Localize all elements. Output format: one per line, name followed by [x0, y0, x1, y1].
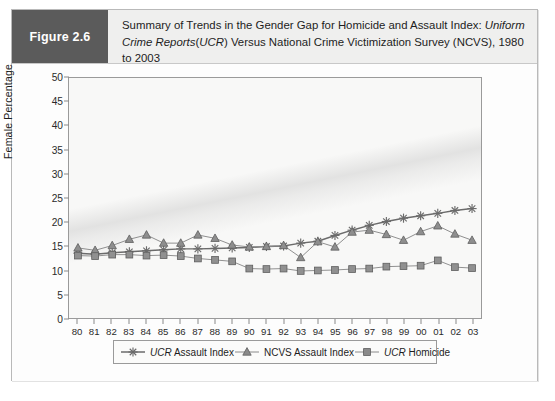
- x-tick-mark: [386, 319, 387, 324]
- x-tick-mark: [94, 319, 95, 324]
- x-tick-label: 94: [313, 326, 324, 337]
- square-marker: [195, 255, 202, 262]
- legend-label-italic: UCR: [384, 347, 406, 358]
- square-marker: [366, 265, 373, 272]
- x-tick-label: 84: [141, 326, 152, 337]
- legend-item[interactable]: UCR Assault Index: [120, 346, 234, 358]
- asterisk-marker: [467, 204, 476, 213]
- x-tick-label: 91: [261, 326, 272, 337]
- series-asterisk: [73, 204, 476, 259]
- x-tick-label: 98: [382, 326, 393, 337]
- y-tick-mark: [64, 77, 69, 78]
- y-tick-mark: [64, 198, 69, 199]
- triangle-marker: [434, 221, 442, 229]
- data-series-layer: [69, 78, 481, 318]
- series-line: [78, 226, 472, 258]
- y-tick-mark: [64, 294, 69, 295]
- triangle-marker: [159, 239, 167, 247]
- x-tick-label: 86: [175, 326, 186, 337]
- x-tick-label: 96: [347, 326, 358, 337]
- square-marker: [469, 265, 476, 272]
- figure-page: Figure 2.6 Summary of Trends in the Gend…: [0, 0, 555, 401]
- asterisk-marker: [128, 347, 137, 356]
- x-tick-mark: [197, 319, 198, 324]
- figure-title: Summary of Trends in the Gender Gap for …: [108, 10, 537, 63]
- x-tick-label: 85: [158, 326, 169, 337]
- y-tick-label: 50: [12, 72, 63, 83]
- figure-header: Figure 2.6 Summary of Trends in the Gend…: [12, 10, 537, 64]
- y-tick-mark: [64, 149, 69, 150]
- square-marker: [92, 253, 99, 260]
- x-tick-label: 83: [123, 326, 134, 337]
- legend-item-label: UCR Assault Index: [150, 347, 234, 358]
- triangle-marker: [243, 348, 251, 356]
- legend-symbol: [354, 346, 380, 358]
- y-tick-mark: [64, 173, 69, 174]
- y-tick-label: 35: [12, 144, 63, 155]
- x-tick-mark: [438, 319, 439, 324]
- legend-label-italic: UCR: [150, 347, 172, 358]
- x-tick-mark: [352, 319, 353, 324]
- x-tick-mark: [180, 319, 181, 324]
- chart-legend: UCR Assault IndexNCVS Assault IndexUCR H…: [113, 340, 437, 364]
- triangle-marker: [142, 231, 150, 239]
- legend-item[interactable]: UCR Homicide: [354, 346, 450, 358]
- asterisk-marker: [296, 239, 305, 248]
- y-tick-label: 40: [12, 120, 63, 131]
- square-marker: [434, 257, 441, 264]
- series-square: [75, 251, 476, 274]
- x-tick-mark: [300, 319, 301, 324]
- x-tick-label: 82: [106, 326, 117, 337]
- x-tick-mark: [318, 319, 319, 324]
- plot-area: Female Percentage 05101520253035404550 8…: [12, 64, 537, 381]
- x-tick-mark: [145, 319, 146, 324]
- x-tick-mark: [128, 319, 129, 324]
- asterisk-marker: [382, 217, 391, 226]
- square-marker: [400, 263, 407, 270]
- square-marker: [246, 265, 253, 272]
- y-tick-mark: [64, 222, 69, 223]
- x-tick-mark: [455, 319, 456, 324]
- triangle-marker: [194, 231, 202, 239]
- legend-symbol: [120, 346, 146, 358]
- square-marker: [143, 252, 150, 259]
- x-tick-mark: [421, 319, 422, 324]
- x-tick-mark: [404, 319, 405, 324]
- square-marker: [212, 257, 219, 264]
- y-tick-mark: [64, 101, 69, 102]
- x-tick-label: 01: [433, 326, 444, 337]
- triangle-marker: [74, 244, 82, 252]
- square-marker: [383, 263, 390, 270]
- x-tick-label: 92: [278, 326, 289, 337]
- square-marker: [417, 262, 424, 269]
- series-line: [78, 209, 472, 255]
- y-tick-label: 20: [12, 217, 63, 228]
- x-tick-mark: [249, 319, 250, 324]
- legend-item[interactable]: NCVS Assault Index: [234, 346, 354, 358]
- square-marker: [177, 253, 184, 260]
- series-line: [78, 255, 472, 271]
- square-marker: [364, 349, 371, 356]
- square-marker: [109, 251, 116, 258]
- x-tick-mark: [111, 319, 112, 324]
- y-tick-mark: [64, 319, 69, 320]
- x-tick-label: 89: [227, 326, 238, 337]
- asterisk-marker: [399, 214, 408, 223]
- x-tick-mark: [283, 319, 284, 324]
- square-marker: [332, 267, 339, 274]
- y-tick-label: 10: [12, 265, 63, 276]
- y-tick-label: 5: [12, 289, 63, 300]
- square-marker: [126, 251, 133, 258]
- x-tick-mark: [266, 319, 267, 324]
- square-marker: [280, 265, 287, 272]
- square-marker: [314, 267, 321, 274]
- x-tick-label: 00: [416, 326, 427, 337]
- asterisk-marker: [450, 206, 459, 215]
- x-tick-label: 03: [468, 326, 479, 337]
- square-marker: [229, 258, 236, 265]
- asterisk-marker: [210, 244, 219, 253]
- legend-item-label: UCR Homicide: [384, 347, 450, 358]
- x-tick-label: 95: [330, 326, 341, 337]
- y-tick-mark: [64, 125, 69, 126]
- figure-title-ucr-italic: UCR: [199, 36, 224, 48]
